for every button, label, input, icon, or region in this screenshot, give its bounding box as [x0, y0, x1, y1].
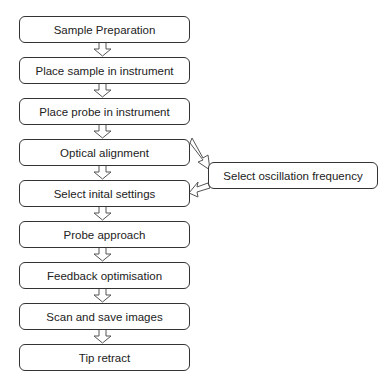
step-place-sample: Place sample in instrument — [19, 57, 190, 84]
down-arrow-icon — [94, 206, 111, 220]
down-arrow-icon — [94, 124, 111, 138]
down-arrow-icon — [94, 288, 111, 302]
step-label: Feedback optimisation — [47, 270, 162, 282]
step-label: Tip retract — [79, 352, 130, 364]
down-arrow-icon — [94, 42, 111, 56]
side-step-oscillation-frequency: Select oscillation frequency — [208, 162, 378, 189]
down-arrow-icon — [94, 329, 111, 343]
diagonal-arrow-icon — [190, 138, 210, 170]
down-arrow-icon — [94, 247, 111, 261]
step-select-initial-settings: Select inital settings — [19, 180, 190, 207]
step-label: Place probe in instrument — [39, 106, 169, 118]
step-label: Place sample in instrument — [35, 65, 173, 77]
step-label: Optical alignment — [60, 147, 149, 159]
down-arrow-icon — [94, 165, 111, 179]
step-label: Probe approach — [64, 229, 146, 241]
step-scan-save-images: Scan and save images — [19, 303, 190, 330]
step-probe-approach: Probe approach — [19, 221, 190, 248]
step-label: Sample Preparation — [54, 24, 156, 36]
step-place-probe: Place probe in instrument — [19, 98, 190, 125]
step-optical-alignment: Optical alignment — [19, 139, 190, 166]
diagonal-arrow-icon — [189, 182, 210, 197]
step-label: Scan and save images — [46, 311, 162, 323]
side-step-label: Select oscillation frequency — [223, 170, 362, 182]
step-feedback-optimisation: Feedback optimisation — [19, 262, 190, 289]
step-sample-preparation: Sample Preparation — [19, 16, 190, 43]
step-label: Select inital settings — [54, 188, 156, 200]
step-tip-retract: Tip retract — [19, 344, 190, 371]
down-arrow-icon — [94, 83, 111, 97]
